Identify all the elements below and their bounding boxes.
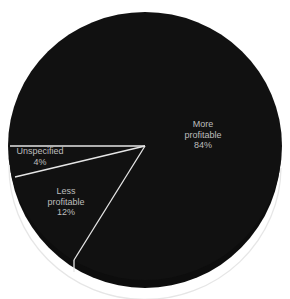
slice-value: 84% bbox=[184, 140, 221, 151]
slice-label-line2: profitable bbox=[184, 130, 221, 141]
slice-label-line1: Less bbox=[47, 186, 84, 197]
slice-label-unspecified: Unspecified 4% bbox=[16, 146, 63, 167]
slice-label-line1: Unspecified bbox=[16, 146, 63, 157]
slice-label-more-profitable: More profitable 84% bbox=[184, 119, 221, 151]
slice-label-less-profitable: Less profitable 12% bbox=[47, 186, 84, 218]
slice-label-line2: profitable bbox=[47, 197, 84, 208]
slice-value: 4% bbox=[16, 157, 63, 168]
slice-label-line1: More bbox=[184, 119, 221, 130]
slice-value: 12% bbox=[47, 207, 84, 218]
